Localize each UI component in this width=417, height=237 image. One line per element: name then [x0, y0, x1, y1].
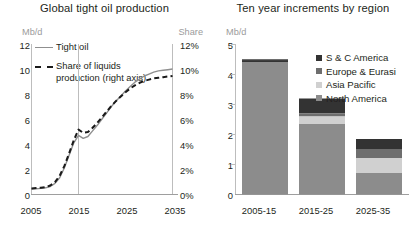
bar-segment-north-america [242, 62, 288, 195]
legend-item-asia-pacific: Asia Pacific [316, 75, 396, 89]
bar-2005-15 [242, 59, 288, 195]
legend-swatch-europe-eurasia [316, 68, 322, 74]
bar-segment-asia-pacific [356, 158, 402, 173]
bar-segment-asia-pacific [299, 117, 345, 125]
bar-segment-north-america [356, 173, 402, 195]
series-tight-oil [32, 69, 173, 189]
bar-segment-europe-eurasia [356, 149, 402, 158]
bar-segment-europe-eurasia [299, 114, 345, 117]
legend-item-s-and-c-america: S & C America [316, 48, 396, 62]
legend-item-north-america: North America [316, 89, 396, 103]
series-share-of-liquids [32, 76, 173, 188]
left-chart-plot [0, 0, 209, 237]
bar-segment-north-america [299, 124, 345, 195]
bar-2025-35 [356, 139, 402, 195]
right-chart-plot [209, 0, 417, 237]
right-chart-panel: Ten year increments by region Mb/d 5 4 3… [209, 0, 417, 237]
legend-label-north-america: North America [326, 93, 387, 104]
legend-swatch-s-and-c-america [316, 55, 322, 61]
right-chart-legend: S & C America Europe & Eurasi Asia Pacif… [316, 48, 396, 102]
legend-item-europe-eurasia: Europe & Eurasi [316, 62, 396, 76]
left-chart-panel: Global tight oil production Mb/d Share 1… [0, 0, 209, 237]
bar-segment-s-and-c-america [356, 139, 402, 149]
bar-segment-s-and-c-america [242, 60, 288, 62]
bar-2015-25 [299, 99, 345, 195]
legend-swatch-asia-pacific [316, 82, 322, 88]
legend-swatch-north-america [316, 95, 322, 101]
bar-segment-europe-eurasia [242, 59, 288, 60]
